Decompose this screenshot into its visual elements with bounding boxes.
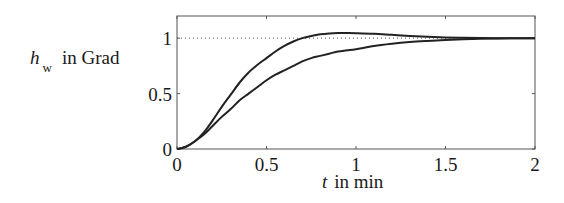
x-tick-label: 0.5	[255, 154, 279, 175]
y-axis-symbol: h	[30, 47, 40, 68]
y-tick-label: 0.5	[148, 84, 172, 105]
y-tick-label: 1	[163, 28, 173, 49]
x-tick-label: 0	[172, 154, 182, 175]
x-axis-symbol: t	[322, 171, 327, 192]
x-tick-label: 2	[530, 154, 540, 175]
x-tick-label: 1.5	[434, 154, 458, 175]
x-axis-unit: in min	[334, 171, 383, 192]
y-axis-subscript: w	[43, 60, 52, 75]
y-axis-unit: in Grad	[62, 47, 120, 68]
y-axis-label: hwin Grad	[30, 47, 119, 69]
x-axis-label: tin min	[322, 171, 383, 193]
line-chart: 00.511.5200.51	[0, 0, 564, 203]
series-line-0	[177, 33, 535, 149]
data-series	[177, 33, 535, 149]
y-tick-label: 0	[163, 139, 173, 160]
plot-area	[177, 16, 535, 149]
axis-ticks	[177, 16, 535, 149]
